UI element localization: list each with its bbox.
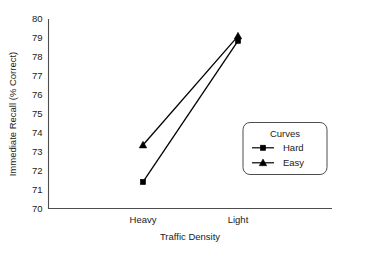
y-tick-label: 73	[32, 146, 43, 157]
series-easy	[139, 32, 241, 148]
legend-label-easy: Easy	[283, 157, 304, 168]
y-tick-label: 75	[32, 108, 43, 119]
y-tick-label: 72	[32, 165, 43, 176]
legend-label-hard: Hard	[283, 142, 304, 153]
x-tick-label: Light	[228, 214, 249, 225]
series-line-hard	[143, 41, 238, 182]
x-tick-labels: HeavyLight	[130, 214, 249, 225]
y-tick-label: 79	[32, 32, 43, 43]
legend-title: Curves	[270, 128, 300, 139]
legend-marker-hard	[260, 145, 265, 150]
y-tick-label: 78	[32, 51, 43, 62]
y-axis-group: 7071727374757677787980	[32, 13, 49, 214]
data-point-easy-light	[234, 32, 241, 39]
y-tick-label: 76	[32, 89, 43, 100]
series-line-easy	[143, 36, 238, 145]
series-layer	[139, 32, 241, 184]
y-tick-label: 77	[32, 70, 43, 81]
y-axis-title: Immediate Recall (% Correct)	[7, 52, 18, 177]
line-chart: 7071727374757677787980 HeavyLight Immedi…	[0, 0, 378, 253]
x-axis-group: HeavyLight	[48, 209, 332, 225]
chart-container: 7071727374757677787980 HeavyLight Immedi…	[0, 0, 378, 253]
y-tick-label: 71	[32, 184, 43, 195]
y-tick-labels: 7071727374757677787980	[32, 13, 43, 214]
data-point-hard-heavy	[140, 179, 145, 184]
y-tick-label: 80	[32, 13, 43, 24]
legend: Curves HardEasy	[243, 123, 327, 175]
y-tick-label: 70	[32, 203, 43, 214]
series-hard	[140, 38, 240, 184]
y-tick-label: 74	[32, 127, 43, 138]
x-axis-title: Traffic Density	[160, 231, 220, 242]
x-tick-label: Heavy	[130, 214, 157, 225]
